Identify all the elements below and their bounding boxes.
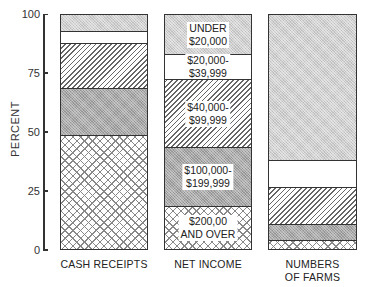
y-tick-label-75: 75 bbox=[6, 67, 40, 79]
x-label-net-income: NET INCOME bbox=[156, 258, 260, 271]
label-100000-199999: $100,000- $199,999 bbox=[182, 164, 233, 190]
segment-40000-99999 bbox=[269, 187, 356, 224]
segment-under-20000 bbox=[61, 15, 147, 32]
x-label-cash-receipts: CASH RECEIPTS bbox=[52, 258, 156, 271]
segment-40000-99999 bbox=[61, 43, 147, 89]
label-40000-99999: $40,000- $99,999 bbox=[185, 101, 230, 127]
label-under-20000: UNDER $20,000 bbox=[187, 22, 229, 48]
segment-200000-over bbox=[61, 135, 147, 250]
bar-net-income: UNDER $20,000 $20,000- $39,999 $40,000- … bbox=[164, 14, 252, 250]
y-tick-75 bbox=[43, 72, 48, 74]
x-label-numbers-of-farms: NUMBERS OF FARMS bbox=[260, 258, 365, 284]
segment-100000-199999 bbox=[269, 224, 356, 241]
segment-200000-over: $200,00 AND OVER bbox=[165, 206, 251, 250]
segment-under-20000 bbox=[269, 15, 356, 161]
segment-100000-199999: $100,000- $199,999 bbox=[165, 147, 251, 206]
bar-cash-receipts bbox=[60, 14, 148, 250]
y-tick-25 bbox=[43, 190, 48, 192]
segment-under-20000: UNDER $20,000 bbox=[165, 15, 251, 55]
y-tick-100 bbox=[43, 14, 48, 16]
y-tick-0 bbox=[43, 249, 48, 251]
bar-numbers-of-farms bbox=[268, 14, 357, 250]
y-axis-title: PERCENT bbox=[9, 99, 21, 159]
segment-200000-over bbox=[269, 240, 356, 249]
segment-40000-99999: $40,000- $99,999 bbox=[165, 79, 251, 148]
y-tick-label-0: 0 bbox=[6, 244, 40, 256]
y-tick-label-100: 100 bbox=[6, 8, 40, 20]
label-20000-39999: $20,000- $39,999 bbox=[185, 54, 230, 80]
y-tick-label-25: 25 bbox=[6, 185, 40, 197]
segment-100000-199999 bbox=[61, 88, 147, 135]
segment-20000-39999: $20,000- $39,999 bbox=[165, 54, 251, 79]
y-tick-50 bbox=[43, 131, 48, 133]
label-200000-over: $200,00 AND OVER bbox=[179, 215, 238, 241]
segment-20000-39999 bbox=[269, 160, 356, 188]
